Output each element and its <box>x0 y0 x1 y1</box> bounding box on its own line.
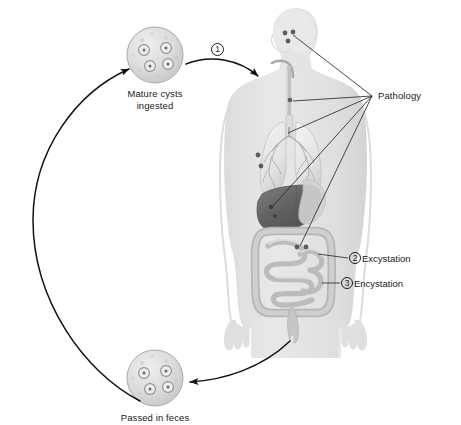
lesion-intestine-2 <box>304 245 309 250</box>
anal-canal <box>292 336 293 352</box>
diagram-canvas: Mature cysts ingested Passed in feces Pa… <box>0 0 461 425</box>
lesion-brain-3 <box>286 39 291 44</box>
label-passed-in-feces: Passed in feces <box>121 412 190 424</box>
arrow-ingestion <box>186 59 258 76</box>
lesion-intestine-1 <box>295 245 300 250</box>
cyst-mature-cysts-ingested <box>127 27 183 83</box>
lesion-lung-1 <box>256 153 261 158</box>
step-number-3: 3 <box>341 277 353 289</box>
step-excystation: 2 Excystation <box>349 252 411 264</box>
lesion-brain-1 <box>283 31 288 36</box>
arrow-cycle-return <box>33 69 140 401</box>
lesion-lung-2 <box>259 164 264 169</box>
life-cycle-diagram <box>0 0 461 425</box>
cyst-wall <box>127 27 183 83</box>
cyst-passed-in-feces <box>127 350 183 406</box>
lesion-liver-2 <box>273 214 277 218</box>
step-label-excystation: Excystation <box>362 253 411 264</box>
step-label-encystation: Encystation <box>354 278 403 289</box>
lesion-brain-2 <box>291 30 296 35</box>
step-encystation: 3 Encystation <box>341 277 403 289</box>
step-number-2: 2 <box>349 252 361 264</box>
lesion-liver-1 <box>269 205 274 210</box>
cyst-wall <box>127 350 183 406</box>
lesion-esophagus-1 <box>288 98 293 103</box>
label-mature-cysts-ingested: Mature cysts ingested <box>127 88 182 111</box>
label-mature-cysts-line1: Mature cysts <box>127 88 182 100</box>
label-pathology: Pathology <box>378 90 421 102</box>
label-mature-cysts-line2: ingested <box>127 100 182 112</box>
human-body-figure <box>220 8 371 358</box>
step-number-1: 1 <box>211 43 224 56</box>
